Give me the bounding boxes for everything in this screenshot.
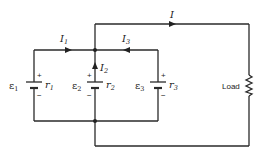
junction-bottom — [93, 119, 97, 123]
label-i1: I1 — [59, 33, 68, 46]
r1-label: r1 — [45, 79, 54, 92]
emf-2-label: ε2 — [72, 80, 81, 93]
battery-3: + − ε3 r3 — [135, 71, 178, 100]
svg-text:−: − — [87, 91, 92, 100]
battery-1: + − ε1 r1 — [9, 71, 54, 100]
r3-label: r3 — [169, 79, 178, 92]
svg-text:+: + — [87, 71, 92, 80]
label-i2: I2 — [99, 62, 108, 75]
emf-1-label: ε1 — [9, 80, 18, 93]
svg-text:+: + — [37, 71, 42, 80]
battery-2: + − ε2 r2 — [72, 71, 115, 100]
svg-text:−: − — [161, 91, 166, 100]
load-resistor: Load — [222, 75, 252, 96]
arrow-i2-icon — [92, 62, 98, 69]
r2-label: r2 — [106, 79, 115, 92]
junction-top — [93, 48, 97, 52]
resistor-zigzag-icon — [246, 75, 252, 96]
circuit-diagram: I1 I3 I2 I + − ε1 r1 + − ε2 r2 + − ε3 r3 — [0, 0, 258, 156]
arrow-i-icon — [169, 21, 176, 27]
svg-text:+: + — [161, 71, 166, 80]
load-label: Load — [222, 82, 240, 91]
arrow-i1-icon — [65, 47, 72, 53]
emf-3-label: ε3 — [135, 80, 144, 93]
label-i: I — [169, 9, 175, 20]
arrow-i3-icon — [123, 47, 130, 53]
svg-text:−: − — [37, 91, 42, 100]
label-i3: I3 — [121, 33, 130, 46]
